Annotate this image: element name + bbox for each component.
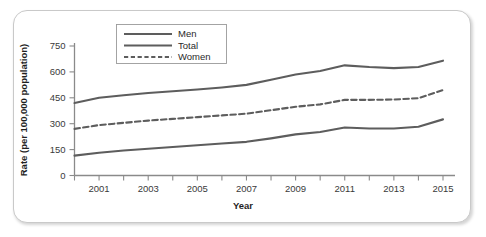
line-chart: 0150300450600750 20012003200520072009201… [0, 0, 486, 237]
legend-label-women: Women [178, 51, 211, 62]
x-tick-group [75, 176, 444, 181]
chart-svg: 0150300450600750 20012003200520072009201… [0, 0, 486, 237]
x-tick-label: 2011 [335, 183, 355, 194]
x-axis-title: Year [233, 200, 253, 211]
legend-label-men: Men [178, 28, 196, 39]
series-line-total [75, 61, 444, 103]
y-tick-label: 150 [50, 144, 66, 155]
x-tick-label: 2007 [236, 183, 257, 194]
legend-label-total: Total [178, 40, 198, 51]
y-tick-label-group: 0150300450600750 [50, 40, 66, 181]
y-tick-label: 450 [50, 92, 66, 103]
y-axis-title: Rate (per 100,000 population) [18, 44, 29, 177]
x-tick-label: 2001 [88, 183, 109, 194]
x-tick-label: 2003 [138, 183, 159, 194]
y-tick-label: 300 [50, 118, 66, 129]
x-tick-label: 2013 [383, 183, 404, 194]
series-line-men [75, 119, 444, 155]
y-tick-label: 600 [50, 66, 66, 77]
chart-legend: MenTotalWomen [117, 25, 227, 64]
y-tick-label: 0 [60, 170, 65, 181]
y-tick-label: 750 [50, 40, 66, 51]
x-tick-label-group: 20012003200520072009201120132015 [88, 183, 453, 194]
x-tick-label: 2015 [432, 183, 453, 194]
series-line-women [75, 90, 444, 129]
x-tick-label: 2005 [187, 183, 208, 194]
series-group [75, 61, 444, 156]
x-tick-label: 2009 [285, 183, 306, 194]
